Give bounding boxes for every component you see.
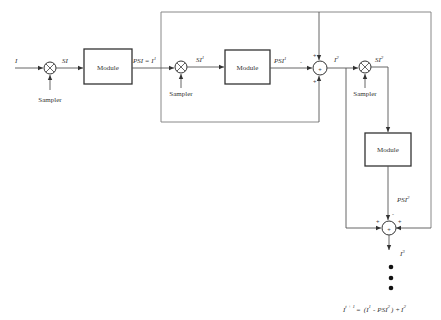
- svg-text:+: +: [398, 218, 402, 224]
- svg-text:+: +: [313, 78, 317, 84]
- module-1-label: Module: [97, 64, 119, 72]
- sampler-3-label: Sampler: [353, 90, 377, 98]
- module-2: Module: [225, 50, 270, 84]
- module-1: Module: [84, 49, 132, 84]
- psi1-label: PSI1: [273, 56, 287, 65]
- feedback-frame-outer: [161, 12, 431, 228]
- minus-sign: -: [392, 211, 394, 217]
- summing-junction-2: + + +: [376, 218, 402, 235]
- stage-2: Sampler SI1 Module PSI1 - + + + I2: [169, 12, 358, 122]
- iterative-sampler-module-diagram: I Sampler SI Module PSI = I1 Sampler SI1: [0, 0, 441, 320]
- svg-text:+: +: [313, 52, 317, 58]
- recurrence-formula: It + 1=(I1-PSI2)+I2: [342, 304, 406, 314]
- input-label: I: [14, 57, 18, 65]
- sampler-2-label: Sampler: [169, 90, 193, 98]
- i3-label: I3: [399, 249, 405, 258]
- module-3-label: Module: [377, 146, 399, 154]
- svg-text:+: +: [318, 66, 322, 72]
- module-2-label: Module: [237, 64, 259, 72]
- psi-eq-i1-label: PSI = I1: [132, 56, 156, 65]
- svg-text:+: +: [376, 218, 380, 224]
- minus-sign: -: [300, 59, 302, 65]
- si2-label: SI2: [375, 55, 384, 64]
- si1-label: SI1: [196, 55, 204, 64]
- svg-text:+: +: [387, 226, 391, 232]
- stage-3: Sampler SI2 Module PSI2 - + + + I3: [346, 55, 431, 290]
- psi2-label: PSI2: [396, 195, 410, 204]
- i2-label: I2: [333, 55, 339, 64]
- module-3: Module: [365, 133, 411, 166]
- continuation-dots: [389, 265, 394, 291]
- si-label: SI: [62, 57, 69, 65]
- summing-junction-1: + + +: [313, 12, 327, 122]
- stage-1: I Sampler SI Module PSI = I1: [14, 49, 174, 104]
- sampler-1-label: Sampler: [38, 96, 62, 104]
